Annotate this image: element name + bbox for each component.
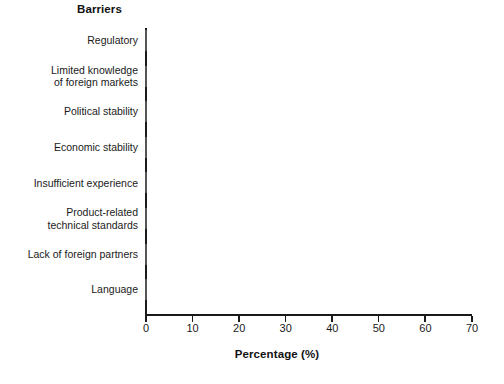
bar-6 xyxy=(145,208,327,229)
category-label-5: Insufficient experience xyxy=(0,177,138,190)
category-label-line: Limited knowledge xyxy=(0,64,138,77)
category-label-4: Economic stability xyxy=(0,141,138,154)
category-label-6: Product-relatedtechnical standards xyxy=(0,206,138,231)
bar-1 xyxy=(145,30,459,51)
category-label-line: Regulatory xyxy=(0,34,138,47)
x-tick-label-30: 30 xyxy=(280,322,292,334)
x-tick-label-50: 50 xyxy=(373,322,385,334)
bar-2 xyxy=(145,66,387,87)
bar-rect xyxy=(145,137,147,158)
x-tick-label-40: 40 xyxy=(326,322,338,334)
category-label-1: Regulatory xyxy=(0,34,138,47)
bar-8 xyxy=(145,279,308,300)
category-label-line: technical standards xyxy=(0,219,138,232)
category-label-line: Insufficient experience xyxy=(0,177,138,190)
x-axis-title-text: Percentage (%) xyxy=(235,348,319,360)
x-tick-label-20: 20 xyxy=(233,322,245,334)
bar-rect xyxy=(145,208,147,229)
category-label-line: Economic stability xyxy=(0,141,138,154)
x-tick-label-70: 70 xyxy=(466,322,478,334)
category-label-2: Limited knowledgeof foreign markets xyxy=(0,64,138,89)
chart-title: Barriers xyxy=(77,3,122,15)
bar-4 xyxy=(145,137,359,158)
category-label-3: Political stability xyxy=(0,105,138,118)
bar-7 xyxy=(145,244,317,265)
bar-5 xyxy=(145,172,355,193)
category-label-8: Language xyxy=(0,283,138,296)
bar-chart: Barriers RegulatoryLimited knowledgeof f… xyxy=(0,0,504,384)
category-label-line: Political stability xyxy=(0,105,138,118)
x-axis-line xyxy=(145,314,472,316)
x-axis-title: Percentage (%) xyxy=(0,348,504,360)
bar-3 xyxy=(145,101,364,122)
bar-rect xyxy=(145,279,147,300)
x-tick-label-0: 0 xyxy=(143,322,149,334)
bar-rect xyxy=(145,172,147,193)
category-label-line: Lack of foreign partners xyxy=(0,248,138,261)
x-tick-label-60: 60 xyxy=(419,322,431,334)
x-tick-label-10: 10 xyxy=(186,322,198,334)
category-label-line: of foreign markets xyxy=(0,76,138,89)
bar-rect xyxy=(145,244,147,265)
category-label-7: Lack of foreign partners xyxy=(0,248,138,261)
bar-rect xyxy=(145,30,147,51)
bar-rect xyxy=(145,101,147,122)
category-label-line: Language xyxy=(0,283,138,296)
category-label-line: Product-related xyxy=(0,206,138,219)
bar-rect xyxy=(145,66,147,87)
